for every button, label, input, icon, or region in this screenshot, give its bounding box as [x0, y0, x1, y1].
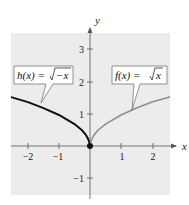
x-tick-label: −1	[53, 151, 64, 162]
svg-text:h(x) =: h(x) =	[17, 69, 45, 82]
h-label-text: h(x) =	[17, 69, 45, 82]
x-tick-label: 1	[120, 151, 125, 162]
h-label-radicand: −x	[56, 69, 68, 81]
x-tick-label: −2	[23, 151, 34, 162]
origin-point	[87, 143, 93, 149]
y-axis-label: y	[94, 14, 100, 26]
x-tick-label: 2	[151, 151, 156, 162]
x-axis-label: x	[181, 140, 187, 152]
x-axis-arrow-icon	[171, 144, 177, 149]
graph: −2 −1 1 2 3 2 1 −1 x y h(x) = −x f(x) = …	[0, 0, 189, 205]
f-label-text: f(x) =	[115, 69, 140, 82]
y-tick-label: 2	[79, 77, 84, 88]
y-axis-arrow-icon	[88, 27, 93, 33]
f-label-radicand: x	[155, 69, 161, 81]
y-tick-label: 3	[79, 44, 84, 55]
y-tick-label: −1	[73, 173, 84, 184]
y-tick-label: 1	[79, 109, 84, 120]
